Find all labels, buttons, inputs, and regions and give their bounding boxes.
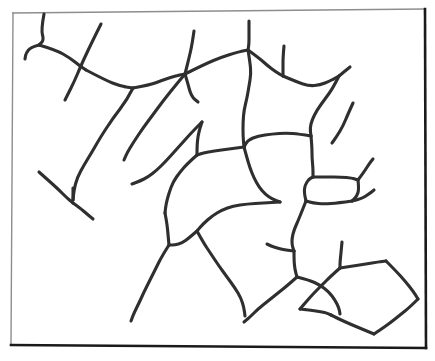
crack-segment-north-center-stem [248, 21, 249, 50]
crack-segment-northeast-north-stem [283, 46, 284, 76]
plot-border-edge-dark-0 [425, 9, 426, 348]
crack-network-figure [0, 0, 435, 361]
crack-network-canvas [0, 0, 435, 361]
